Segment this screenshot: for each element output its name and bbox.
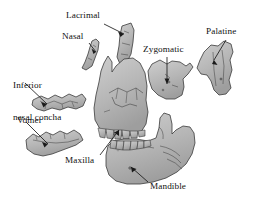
bone-zygomatic xyxy=(148,60,193,99)
bone-palatine xyxy=(197,41,233,95)
label-maxilla: Maxilla xyxy=(65,155,94,165)
label-vomer: Vomer xyxy=(17,115,42,125)
label-zygomatic: Zygomatic xyxy=(143,44,184,54)
label-palatine: Palatine xyxy=(206,26,236,36)
bone-maxilla xyxy=(94,56,148,136)
bone-nasal xyxy=(82,39,99,70)
label-nasal: Nasal xyxy=(62,31,83,41)
label-mandible: Mandible xyxy=(150,181,186,191)
label-inferior-nasal-concha-line1: Inferior xyxy=(13,80,61,91)
label-lacrimal: Lacrimal xyxy=(66,10,100,20)
label-inferior-nasal-concha: Inferior nasal concha xyxy=(13,59,61,144)
figure-canvas: Lacrimal Nasal Zygomatic Palatine Inferi… xyxy=(0,0,261,204)
